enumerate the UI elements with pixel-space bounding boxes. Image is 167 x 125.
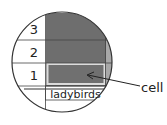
highlighted-cell <box>48 64 105 84</box>
magnified-chart-diagram: 3 2 1 ladybirds cell <box>0 0 167 125</box>
row-label-2: 2 <box>30 45 38 60</box>
callout-label: cell <box>141 80 163 95</box>
category-label: ladybirds <box>50 88 101 101</box>
row-label-3: 3 <box>30 22 38 37</box>
lens-contents <box>0 0 167 125</box>
row-label-1: 1 <box>30 68 38 83</box>
